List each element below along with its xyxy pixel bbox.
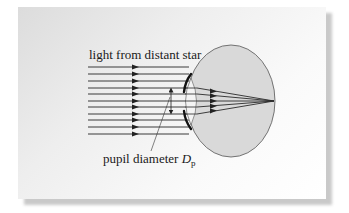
eye-optics-diagram xyxy=(0,0,349,213)
pupil-diameter-label: pupil diameter Dp xyxy=(103,152,196,165)
incoming-rays xyxy=(88,67,189,134)
incoming-light-label: light from distant star xyxy=(89,48,201,61)
pupil-symbol: D xyxy=(182,151,191,166)
pupil-subscript: p xyxy=(191,158,196,168)
pupil-label-text: pupil diameter xyxy=(103,151,182,166)
pupil-pointer-line xyxy=(151,97,170,151)
